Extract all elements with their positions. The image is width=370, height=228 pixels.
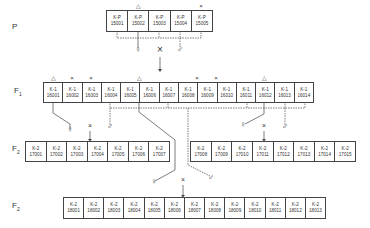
female-symbol-icon: ♀ <box>238 122 248 128</box>
plant-box[interactable]: K-217009 <box>212 142 233 161</box>
female-symbol-icon: ♀ <box>149 179 159 185</box>
plant-box[interactable]: K-P15001 <box>107 11 128 31</box>
plant-box[interactable]: K-P15002 <box>128 11 149 31</box>
gen-label-f2-lower: F2 <box>12 201 20 212</box>
plant-box[interactable]: K-217014 <box>315 142 336 161</box>
plant-box[interactable]: K-218001 <box>64 198 84 218</box>
male-symbol-icon: ♂ <box>105 124 115 130</box>
gen-label-p: P <box>12 22 17 31</box>
plant-box[interactable]: K-217012 <box>274 142 295 161</box>
plant-box[interactable]: K-116010 <box>218 83 237 102</box>
female-symbol-icon: ♀ <box>133 47 143 53</box>
plant-box[interactable]: K-218007 <box>185 198 205 218</box>
male-symbol-icon: ♂ <box>206 175 216 181</box>
plant-box[interactable]: K-217010 <box>232 142 253 161</box>
row-f2-bottom: K-218001 K-218002 K-218003 K-218004 K-21… <box>63 197 326 219</box>
triangle-marker: △ <box>48 75 58 81</box>
plant-box[interactable]: K-116004 <box>102 83 121 102</box>
female-symbol-icon: ♀ <box>65 127 75 133</box>
plant-box[interactable]: K-218010 <box>245 198 265 218</box>
pedigree-connectors <box>0 0 370 228</box>
plant-box[interactable]: K-217001 <box>26 142 47 161</box>
plant-box[interactable]: K-116011 <box>237 83 256 102</box>
cross-marker: × <box>67 75 77 81</box>
plant-box[interactable]: K-218008 <box>205 198 225 218</box>
plant-box[interactable]: K-116009 <box>198 83 217 102</box>
cross-symbol: × <box>259 123 269 129</box>
plant-box[interactable]: K-116003 <box>83 83 102 102</box>
plant-box[interactable]: K-218013 <box>306 198 325 218</box>
plant-box[interactable]: K-116005 <box>121 83 140 102</box>
plant-box[interactable]: K-217008 <box>191 142 212 161</box>
plant-box[interactable]: K-116013 <box>275 83 294 102</box>
row-f2-right: K-217008 K-217009 K-217010 K-217011 K-21… <box>190 141 356 162</box>
plant-box[interactable]: K-217007 <box>149 142 169 161</box>
plant-box[interactable]: K-217006 <box>129 142 150 161</box>
plant-box[interactable]: K-116006 <box>140 83 159 102</box>
plant-box[interactable]: K-218005 <box>145 198 165 218</box>
plant-box[interactable]: K-218003 <box>104 198 124 218</box>
plant-box[interactable]: K-218006 <box>165 198 185 218</box>
cross-symbol: × <box>155 47 165 53</box>
plant-box[interactable]: K-217005 <box>108 142 129 161</box>
triangle-marker: △ <box>134 75 144 81</box>
plant-box[interactable]: K-116002 <box>63 83 82 102</box>
gen-label-f1: F1 <box>14 86 22 97</box>
plant-box[interactable]: K-116001 <box>44 83 63 102</box>
cross-symbol: × <box>178 177 188 183</box>
row-f1: K-116001 K-116002 K-116003 K-116004 K-11… <box>43 82 314 103</box>
male-symbol-icon: ♂ <box>280 124 290 130</box>
male-symbol-icon: ♂ <box>175 47 185 53</box>
plant-box[interactable]: K-217003 <box>67 142 88 161</box>
cross-marker: × <box>196 3 206 9</box>
plant-box[interactable]: K-217013 <box>294 142 315 161</box>
row-p: K-P15001 K-P15002 K-P15003 K-P15004 K-P1… <box>106 10 213 32</box>
plant-box[interactable]: K-116012 <box>256 83 275 102</box>
plant-box[interactable]: K-116014 <box>295 83 313 102</box>
plant-box[interactable]: K-217015 <box>335 142 355 161</box>
plant-box[interactable]: K-218009 <box>225 198 245 218</box>
plant-box[interactable]: K-P15005 <box>192 11 212 31</box>
plant-box[interactable]: K-217011 <box>253 142 274 161</box>
cross-marker: × <box>211 75 221 81</box>
row-f2-left: K-217001 K-217002 K-217003 K-217004 K-21… <box>25 141 170 162</box>
plant-box[interactable]: K-218012 <box>286 198 306 218</box>
plant-box[interactable]: K-P15004 <box>171 11 192 31</box>
triangle-marker: △ <box>259 75 269 81</box>
gen-label-f2-upper: F2 <box>12 144 20 155</box>
plant-box[interactable]: K-217004 <box>88 142 109 161</box>
cross-symbol: × <box>85 123 95 129</box>
plant-box[interactable]: K-116007 <box>160 83 179 102</box>
plant-box[interactable]: K-217002 <box>47 142 68 161</box>
plant-box[interactable]: K-P15003 <box>149 11 170 31</box>
plant-box[interactable]: K-218004 <box>124 198 144 218</box>
triangle-marker: △ <box>133 3 143 9</box>
plant-box[interactable]: K-116008 <box>179 83 198 102</box>
cross-marker: × <box>192 75 202 81</box>
plant-box[interactable]: K-218002 <box>84 198 104 218</box>
cross-marker: × <box>86 75 96 81</box>
plant-box[interactable]: K-218011 <box>266 198 286 218</box>
